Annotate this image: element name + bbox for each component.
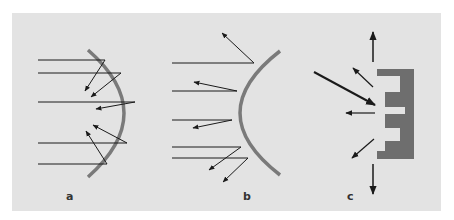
panel-label-b: b [243,190,251,203]
panel-label-c: c [347,190,354,203]
panel-c-diffuse-surface [314,32,414,194]
panel-b-convex-mirror [172,33,280,182]
concave-surface [88,50,124,177]
reflection-diagram: a b c [0,0,454,220]
incident-ray [314,72,375,105]
stepped-surface [377,69,414,159]
convex-surface [240,51,280,175]
panel-label-a: a [66,190,73,203]
diagram-drawing [0,0,454,220]
panel-a-concave-mirror [38,50,135,177]
